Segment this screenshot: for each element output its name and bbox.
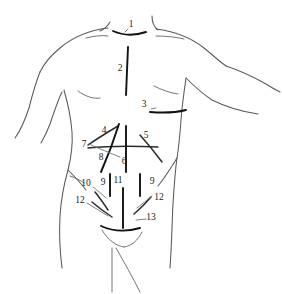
- neck-right-outline: [152, 16, 158, 30]
- torso-right-outline: [170, 78, 186, 268]
- label-11: 11: [113, 175, 122, 185]
- label-6: 6: [122, 156, 127, 166]
- label-4: 4: [102, 125, 107, 135]
- shoulder-left-outline: [40, 28, 108, 72]
- shoulder-right-outline: [156, 29, 226, 66]
- pectoral-left-detail: [78, 91, 100, 98]
- leader-13: [136, 219, 146, 220]
- leader-1: [125, 29, 128, 32]
- clavicle-right-detail: [156, 36, 184, 39]
- arm-left-outer-outline: [15, 72, 40, 138]
- label-8: 8: [99, 152, 104, 162]
- body-outline-group: [15, 16, 280, 268]
- label-12-left: 12: [75, 195, 85, 205]
- groin-crease-right-detail: [124, 232, 142, 247]
- incision-1-collar: [113, 31, 146, 35]
- leader-3: [151, 108, 156, 109]
- surgical-incisions-figure: 1 2 3 4 5 6 7 8 9 10 11 12 9 12 13: [0, 0, 282, 294]
- torso-left-outline: [60, 90, 73, 268]
- label-9-left: 9: [101, 177, 106, 187]
- label-12-right: 12: [154, 192, 164, 202]
- groin-crease-left-detail: [102, 230, 124, 247]
- armpit-left-outline: [41, 92, 62, 143]
- label-group: 1 2 3 4 5 6 7 8 9 10 11 12 9 12 13: [75, 19, 164, 222]
- label-1: 1: [129, 19, 134, 29]
- neck-left-outline: [100, 22, 110, 31]
- label-7: 7: [82, 139, 87, 149]
- incision-2-median-sternotomy: [126, 47, 128, 95]
- incision-10-flank-left: [95, 192, 108, 210]
- incision-3-subcostal: [150, 110, 186, 113]
- label-3: 3: [142, 99, 147, 109]
- leader-lines-group: [87, 29, 156, 220]
- label-13: 13: [146, 212, 156, 222]
- incision-13-pfannenstiel: [101, 226, 140, 230]
- clavicle-left-detail: [86, 36, 108, 38]
- label-2: 2: [118, 63, 123, 73]
- torso-line-drawing: 1 2 3 4 5 6 7 8 9 10 11 12 9 12 13: [0, 0, 282, 294]
- pectoral-right-detail: [154, 86, 178, 94]
- arm-right-outer-outline: [226, 66, 280, 92]
- label-10: 10: [81, 178, 91, 188]
- label-9-right: 9: [150, 176, 155, 186]
- leg-right-detail: [116, 248, 140, 292]
- label-5: 5: [144, 130, 149, 140]
- incision-12-inguinal-left: [92, 202, 112, 217]
- armpit-right-outline: [186, 78, 258, 114]
- leader-12-right: [137, 196, 152, 208]
